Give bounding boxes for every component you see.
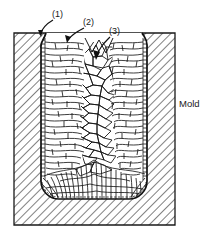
mold-label: Mold	[179, 98, 200, 109]
casting-grain-structure-figure: (1) (2) (3) Mold	[0, 0, 208, 239]
callout-label-1: (1)	[52, 9, 63, 19]
casting-cavity	[41, 33, 147, 199]
callout-label-3: (3)	[109, 26, 120, 36]
callout-label-2: (2)	[83, 17, 94, 27]
figure-canvas: (1) (2) (3) Mold	[0, 0, 208, 239]
